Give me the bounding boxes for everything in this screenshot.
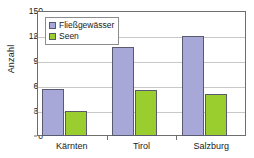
chart-legend: FließgewässerSeen: [45, 17, 119, 45]
gridline: [38, 112, 245, 113]
legend-swatch-icon: [49, 22, 56, 29]
y-axis-title: Anzahl: [6, 32, 16, 86]
x-category-label: Tirol: [133, 141, 150, 151]
bar-chart: Anzahl 0306090120150 KärntenTirolSalzbur…: [0, 0, 254, 158]
x-tick-mark: [176, 136, 177, 140]
gridline: [38, 87, 245, 88]
legend-swatch-icon: [49, 33, 56, 40]
gridline: [38, 62, 245, 63]
x-tick-mark: [107, 136, 108, 140]
x-category-label: Salzburg: [193, 141, 229, 151]
x-category-label: Kärnten: [56, 141, 88, 151]
legend-item: Seen: [49, 31, 114, 41]
legend-label: Fließgewässer: [59, 21, 114, 30]
legend-item: Fließgewässer: [49, 21, 114, 31]
legend-label: Seen: [59, 32, 79, 41]
